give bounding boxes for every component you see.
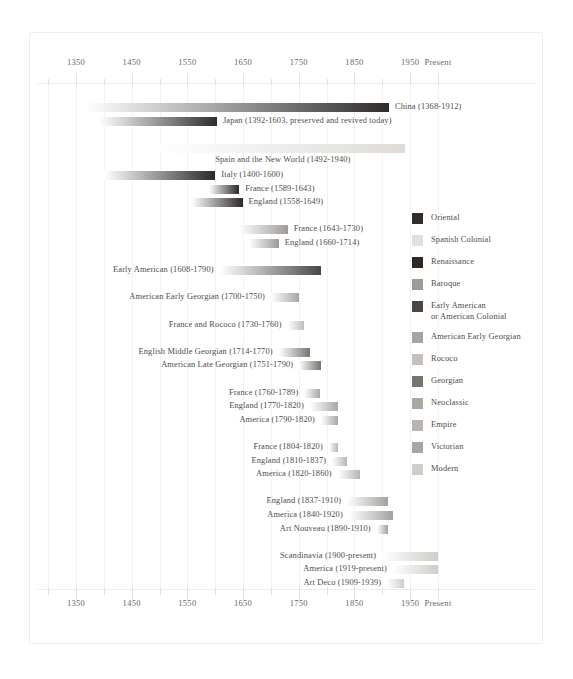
timeline-row[interactable]: American Late Georgian (1751-1790)	[30, 359, 544, 372]
legend-label: Modern	[431, 464, 458, 475]
legend-swatch-icon	[412, 354, 423, 365]
legend-swatch-icon	[412, 213, 423, 224]
timeline-bar[interactable]	[299, 361, 321, 370]
timeline-row-label: America (1790-1820)	[239, 415, 321, 424]
legend-label: Victorian	[431, 442, 463, 453]
legend-item-american-early-georgian[interactable]: American Early Georgian	[412, 332, 521, 343]
timeline-bar[interactable]	[377, 525, 388, 534]
legend-swatch-icon	[412, 332, 423, 343]
timeline-row-label: Early American (1608-1790)	[113, 265, 220, 274]
timeline-bar[interactable]	[338, 470, 360, 479]
timeline-bar[interactable]	[249, 239, 279, 248]
timeline-row-label: Spain and the New World (1492-1940)	[209, 155, 350, 164]
timeline-row-label: France (1804-1820)	[253, 442, 328, 451]
timeline-bar[interactable]	[209, 185, 239, 194]
timeline-row[interactable]: Japan (1392-1603, preserved and revived …	[30, 115, 544, 128]
timeline-row-label: France and Rococo (1730-1760)	[169, 320, 288, 329]
timeline-bar[interactable]	[86, 103, 389, 112]
timeline-bar[interactable]	[155, 144, 405, 153]
timeline-row-label: Art Deco (1909-1939)	[303, 578, 387, 587]
timeline-row-label: China (1368-1912)	[389, 102, 462, 111]
legend-label: Renaissance	[431, 257, 474, 268]
timeline-row[interactable]: France (1589-1643)	[30, 183, 544, 196]
timeline-bar[interactable]	[304, 389, 320, 398]
legend-swatch-icon	[412, 376, 423, 387]
axis-tick-label-top-1650: 1650	[234, 57, 252, 67]
legend-item-renaissance[interactable]: Renaissance	[412, 257, 474, 268]
axis-tick-label-top-1550: 1550	[178, 57, 196, 67]
timeline-row-label: England (1810-1837)	[251, 456, 332, 465]
legend-item-early-american[interactable]: Early American or American Colonial	[412, 301, 507, 322]
timeline-bar[interactable]	[332, 457, 347, 466]
legend-label: Neoclassic	[431, 398, 469, 409]
axis-tick-label-top-1850: 1850	[345, 57, 363, 67]
timeline-bar[interactable]	[329, 443, 338, 452]
legend-item-victorian[interactable]: Victorian	[412, 442, 463, 453]
timeline-bar[interactable]	[220, 266, 321, 275]
timeline-row[interactable]: America (1919-present)	[30, 563, 544, 576]
legend-label: Empire	[431, 420, 457, 431]
legend-swatch-icon	[412, 301, 423, 312]
timeline-row[interactable]: America (1840-1920)	[30, 509, 544, 522]
timeline-bar[interactable]	[192, 198, 243, 207]
timeline-bar[interactable]	[387, 579, 404, 588]
legend-item-modern[interactable]: Modern	[412, 464, 458, 475]
timeline-bar[interactable]	[347, 497, 388, 506]
axis-tick-label-top-1450: 1450	[123, 57, 141, 67]
timeline-bar[interactable]	[382, 552, 438, 561]
timeline-bar[interactable]	[349, 511, 394, 520]
timeline-row[interactable]: Spain and the New World (1492-1940)	[30, 142, 544, 155]
timeline-row[interactable]: America (1790-1820)	[30, 414, 544, 427]
legend-item-neoclassic[interactable]: Neoclassic	[412, 398, 469, 409]
timeline-bar[interactable]	[288, 321, 305, 330]
timeline-bar[interactable]	[104, 171, 215, 180]
axis-tick-label-top-1350: 1350	[67, 57, 85, 67]
timeline-row-label: France (1643-1730)	[288, 224, 363, 233]
legend-item-oriental[interactable]: Oriental	[412, 213, 460, 224]
timeline-bar[interactable]	[99, 117, 217, 126]
legend-label: Early American or American Colonial	[431, 301, 507, 322]
timeline-row-label: America (1820-1860)	[256, 469, 338, 478]
timeline-bar[interactable]	[393, 565, 438, 574]
timeline-row-label: England (1770-1820)	[229, 401, 310, 410]
timeline-row-label: Italy (1400-1600)	[215, 170, 283, 179]
timeline-row[interactable]: Italy (1400-1600)	[30, 169, 544, 182]
timeline-row[interactable]: English Middle Georgian (1714-1770)	[30, 346, 544, 359]
legend-item-empire[interactable]: Empire	[412, 420, 457, 431]
timeline-row-label: America (1840-1920)	[267, 510, 349, 519]
timeline-row[interactable]: Scandinavia (1900-present)	[30, 550, 544, 563]
timeline-bar[interactable]	[321, 416, 338, 425]
legend-item-rococo[interactable]: Rococo	[412, 354, 457, 365]
timeline-bar[interactable]	[279, 348, 310, 357]
axis-tick-label-top-1950: 1950	[401, 57, 419, 67]
legend-label: Georgian	[431, 376, 463, 387]
timeline-row[interactable]: England (1558-1649)	[30, 196, 544, 209]
timeline-row-label: American Late Georgian (1751-1790)	[161, 360, 299, 369]
legend-item-spanish-colonial[interactable]: Spanish Colonial	[412, 235, 491, 246]
timeline-row[interactable]: China (1368-1912)	[30, 101, 544, 114]
axis-tick-label-top-present: Present	[424, 57, 451, 67]
timeline-row-label: Japan (1392-1603, preserved and revived …	[217, 116, 392, 125]
axis-tick-label-top-1750: 1750	[290, 57, 308, 67]
timeline-bar[interactable]	[310, 402, 338, 411]
chart-frame: 1350145015501650175018501950Present 1350…	[29, 32, 543, 644]
timeline-bar[interactable]	[271, 293, 299, 302]
legend-label: Spanish Colonial	[431, 235, 491, 246]
timeline-bar[interactable]	[239, 225, 287, 234]
legend-swatch-icon	[412, 464, 423, 475]
top-axis-rule	[38, 83, 536, 84]
timeline-row-label: English Middle Georgian (1714-1770)	[139, 347, 279, 356]
timeline-row[interactable]: Art Deco (1909-1939)	[30, 577, 544, 590]
timeline-row[interactable]: France (1804-1820)	[30, 441, 544, 454]
legend-swatch-icon	[412, 235, 423, 246]
top-axis-labels: 1350145015501650175018501950Present	[30, 57, 544, 71]
legend-swatch-icon	[412, 442, 423, 453]
timeline-row[interactable]: England (1810-1837)	[30, 455, 544, 468]
legend-item-baroque[interactable]: Baroque	[412, 279, 460, 290]
timeline-row-label: American Early Georgian (1700-1750)	[129, 292, 271, 301]
legend-label: Rococo	[431, 354, 457, 365]
legend-item-georgian[interactable]: Georgian	[412, 376, 463, 387]
timeline-row[interactable]: America (1820-1860)	[30, 468, 544, 481]
timeline-row[interactable]: Art Nouveau (1890-1910)	[30, 523, 544, 536]
timeline-row[interactable]: England (1837-1910)	[30, 495, 544, 508]
